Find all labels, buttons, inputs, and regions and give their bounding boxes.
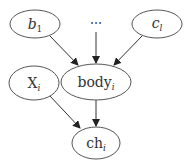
node-b1[interactable]: b1 [10, 10, 60, 38]
node-xi[interactable]: Xi [9, 66, 59, 100]
diagram-canvas: b1 ⋯ cl Xi bodyi chi [0, 0, 190, 167]
ellipsis-label: ⋯ [90, 16, 102, 30]
edge-xi-to-ch [50, 96, 80, 128]
node-ellipsis: ⋯ [90, 16, 102, 30]
node-cl[interactable]: cl [132, 10, 182, 38]
edge-cl-to-body [114, 36, 142, 65]
node-body[interactable]: bodyi [61, 64, 131, 100]
edge-b1-to-body [50, 36, 78, 65]
node-body-label: bodyi [77, 74, 114, 92]
node-ch[interactable]: chi [72, 127, 120, 159]
